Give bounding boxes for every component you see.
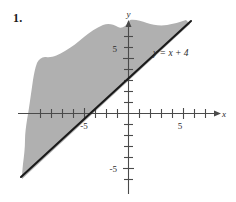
- x-axis-label: x: [221, 109, 226, 119]
- x-tick-label-negative: -5: [80, 121, 88, 131]
- inequality-graph-figure: 1.: [0, 0, 236, 202]
- y-tick-label-negative: -5: [110, 164, 118, 174]
- x-axis-arrow: [214, 111, 221, 117]
- coordinate-plot: 5 -5 5 -5 x y y = x + 4: [0, 0, 236, 202]
- equation-label: y = x + 4: [152, 48, 189, 58]
- x-tick-label-positive: 5: [178, 121, 183, 131]
- y-tick-label-positive: 5: [113, 44, 118, 54]
- y-axis-label: y: [126, 9, 131, 19]
